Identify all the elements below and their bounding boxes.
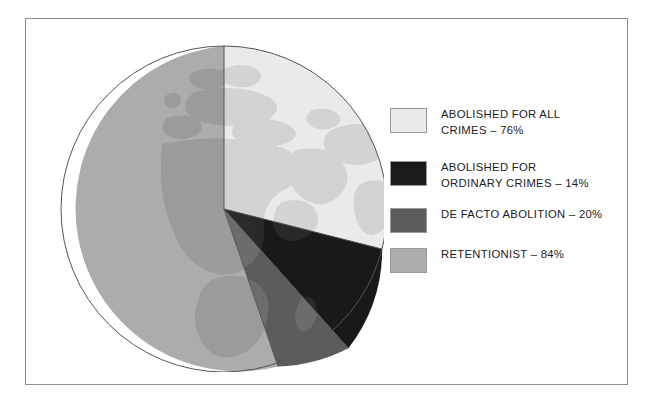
chart-legend: ABOLISHED FOR ALL CRIMES – 76% ABOLISHED… [390, 107, 620, 287]
legend-swatch-retentionist [390, 248, 427, 273]
legend-swatch-abolished-ordinary-crimes [390, 161, 427, 186]
legend-label-abolished-all-crimes: ABOLISHED FOR ALL CRIMES – 76% [441, 107, 560, 138]
legend-item-abolished-ordinary-crimes[interactable]: ABOLISHED FOR ORDINARY CRIMES – 14% [390, 160, 620, 191]
legend-item-de-facto-abolition[interactable]: DE FACTO ABOLITION – 20% [390, 207, 620, 233]
chart-frame: ABOLISHED FOR ALL CRIMES – 76% ABOLISHED… [25, 18, 628, 385]
legend-swatch-abolished-all-crimes [390, 108, 427, 133]
pie-chart-area [44, 32, 384, 372]
legend-label-abolished-ordinary-crimes: ABOLISHED FOR ORDINARY CRIMES – 14% [441, 160, 589, 191]
legend-label-de-facto-abolition: DE FACTO ABOLITION – 20% [441, 207, 602, 223]
legend-swatch-de-facto-abolition [390, 208, 427, 233]
legend-label-retentionist: RETENTIONIST – 84% [441, 247, 564, 263]
pie-chart-svg [44, 32, 384, 372]
legend-item-abolished-all-crimes[interactable]: ABOLISHED FOR ALL CRIMES – 76% [390, 107, 620, 138]
legend-item-retentionist[interactable]: RETENTIONIST – 84% [390, 247, 620, 273]
figure-container: ABOLISHED FOR ALL CRIMES – 76% ABOLISHED… [0, 0, 649, 413]
